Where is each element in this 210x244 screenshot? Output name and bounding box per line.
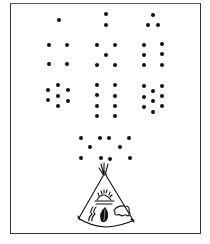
tipi-icon (0, 0, 210, 244)
illustration-canvas (0, 0, 210, 244)
